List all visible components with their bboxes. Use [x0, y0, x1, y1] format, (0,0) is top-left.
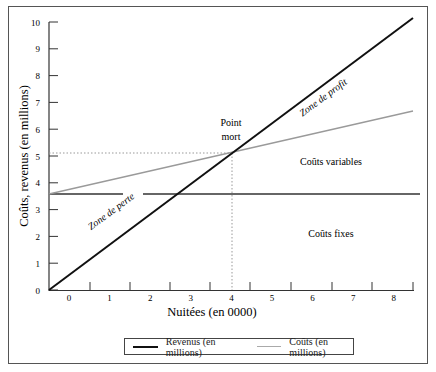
x-axis-label: Nuitées (en 0000) — [167, 305, 257, 319]
legend: Revenus (en millions) Coûts (en millions… — [124, 338, 354, 355]
y-tick-label: 9 — [36, 44, 41, 54]
y-tick-label: 5 — [36, 152, 41, 162]
annotation-zone-perte: Zone de perte — [86, 190, 137, 232]
chart-svg: 012345678910 012345678 Nuitées (en 0000)… — [0, 0, 436, 372]
legend-label-revenus: Revenus (en millions) — [166, 336, 239, 358]
y-axis-label: Coûts, revenus (en millions) — [17, 85, 31, 227]
legend-swatch-couts — [257, 346, 282, 347]
y-ticks: 012345678910 — [31, 18, 58, 296]
x-tick-label: 4 — [229, 293, 234, 303]
legend-label-couts: Coûts (en millions) — [289, 336, 353, 358]
annotation-point-mort-1: Point — [220, 117, 241, 128]
y-tick-label: 4 — [36, 178, 41, 188]
x-tick-label: 3 — [189, 293, 194, 303]
x-tick-label: 1 — [107, 293, 112, 303]
annotation-point-mort-2: mort — [222, 131, 241, 142]
legend-item-couts: Coûts (en millions) — [257, 336, 353, 358]
y-tick-label: 10 — [31, 18, 41, 28]
y-tick-label: 0 — [36, 286, 41, 296]
x-ticks: 012345678 — [67, 282, 413, 303]
x-tick-label: 8 — [392, 293, 397, 303]
x-tick-label: 5 — [270, 293, 275, 303]
annotation-couts-variables: Coûts variables — [300, 156, 362, 167]
y-tick-label: 2 — [36, 232, 41, 242]
x-tick-label: 7 — [351, 293, 356, 303]
y-tick-label: 8 — [36, 71, 41, 81]
y-tick-label: 3 — [36, 205, 41, 215]
annotation-couts-fixes: Coûts fixes — [308, 228, 353, 239]
x-tick-label: 2 — [148, 293, 153, 303]
legend-swatch-revenus — [133, 346, 158, 348]
y-tick-label: 1 — [36, 259, 41, 269]
legend-item-revenus: Revenus (en millions) — [133, 336, 239, 358]
x-tick-label: 0 — [67, 293, 72, 303]
y-tick-label: 6 — [36, 125, 41, 135]
revenue-line — [49, 18, 413, 290]
y-tick-label: 7 — [36, 98, 41, 108]
annotation-zone-profit: Zone de profit — [297, 76, 349, 118]
x-tick-label: 6 — [310, 293, 315, 303]
